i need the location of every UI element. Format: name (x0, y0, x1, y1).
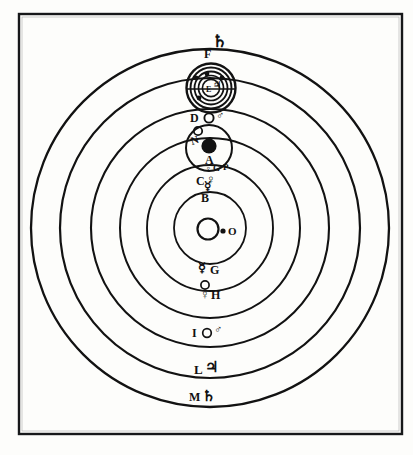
venus-symbol-H: ♀ (200, 287, 210, 302)
orbit-label-G: G (210, 263, 219, 277)
marker-jupiter-L: L ♃ (194, 359, 218, 377)
sun-label-dot (220, 228, 225, 233)
saturn-symbol-M: ♄ (202, 388, 215, 404)
medicean-moon-europa (205, 72, 210, 77)
orbit-label-I: I (192, 326, 197, 340)
earth-label-A: A (205, 153, 214, 167)
saturn-symbol-top: ♄ (212, 32, 227, 51)
mars-symbol-I: ♂ (214, 323, 222, 335)
orbit-label-L: L (194, 362, 203, 377)
orbit-label-H: H (211, 288, 221, 302)
copernican-system-plate: O ☿ G ♀ H I ♂ L ♃ M ♄ (0, 0, 413, 455)
jupiter-inner-label-E: E (206, 85, 211, 94)
orbit-label-C: C (196, 174, 205, 188)
jupiter-symbol-L: ♃ (205, 359, 218, 375)
orbit-label-B: B (201, 191, 209, 205)
earth-disk (201, 138, 216, 153)
medicean-moon-callisto (197, 96, 202, 101)
orbit-label-D: D (190, 111, 199, 125)
marker-saturn-M: M ♄ (189, 388, 215, 404)
mercury-symbol-G: ☿ (198, 260, 206, 275)
medicean-moon-io (194, 76, 199, 81)
orbit-label-M: M (189, 390, 200, 404)
jupiter-symbol-inner: ♃ (213, 80, 221, 90)
diagram-stage: O ☿ G ♀ H I ♂ L ♃ M ♄ (0, 0, 413, 455)
jupiter-label-F: F (204, 47, 211, 61)
sun-label: O (228, 225, 237, 237)
venus-symbol-C: ♀ (206, 172, 216, 187)
